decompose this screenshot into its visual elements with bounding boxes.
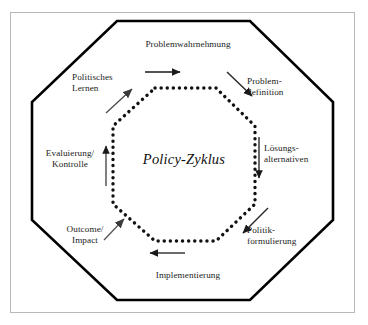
stage-label-problemwahrnehmung: Problemwahrnehmung	[128, 39, 248, 50]
diagram-canvas: Problemwahrnehmung Politisches Lernen Pr…	[0, 0, 368, 325]
stage-label-loesungsalternativen: Lösungs- alternativen	[264, 143, 340, 165]
stage-label-problemdefinition: Problem- definition	[247, 76, 317, 98]
stage-label-implementierung: Implementierung	[128, 270, 248, 281]
stage-label-evaluierung-kontrolle: Evaluierung/ Kontrolle	[34, 148, 106, 170]
center-title-policy-zyklus: Policy-Zyklus	[123, 151, 245, 168]
stage-label-politikformulierung: Politik- formulierung	[247, 225, 327, 247]
stage-label-politisches-lernen: Politisches Lernen	[72, 72, 134, 94]
stage-label-outcome-impact: Outcome/ Impact	[52, 224, 118, 246]
